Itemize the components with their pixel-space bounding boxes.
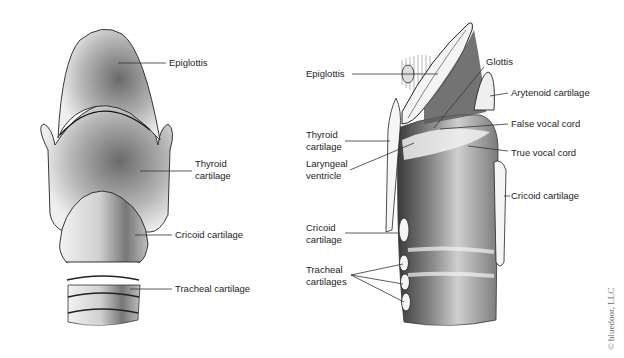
label-line-2: cartilage [306, 141, 342, 153]
label-cricoid-cartilage-anterior: Cricoid cartilage [306, 222, 342, 246]
label-cricoid-cartilage-posterior: Cricoid cartilage [511, 190, 579, 202]
label-line-2: cartilage [195, 170, 231, 182]
label-false-vocal-cord: False vocal cord [511, 118, 580, 130]
label-line-1: Thyroid [195, 158, 231, 170]
label-line-2: ventricle [306, 170, 348, 182]
label-line-2: cartilage [306, 234, 342, 246]
label-line-1: Laryngeal [306, 158, 348, 170]
label-line-2: cartilages [306, 276, 347, 288]
label-line-1: Cricoid [306, 222, 342, 234]
label-line-1: Tracheal [306, 264, 347, 276]
label-tracheal-cartilages: Tracheal cartilages [306, 264, 347, 288]
label-thyroid-cartilage-section: Thyroid cartilage [306, 129, 342, 153]
copyright-notice: © bluedoor, LLC [606, 288, 616, 350]
label-epiglottis-front: Epiglottis [169, 57, 208, 69]
label-glottis: Glottis [486, 56, 513, 68]
label-cricoid-cartilage-front: Cricoid cartilage [175, 229, 243, 241]
anterior-larynx-drawing [41, 29, 173, 330]
label-arytenoid-cartilage: Arytenoid cartilage [511, 87, 590, 99]
label-line-1: Thyroid [306, 129, 342, 141]
sagittal-larynx-drawing [386, 23, 510, 330]
label-thyroid-cartilage-front: Thyroid cartilage [195, 158, 231, 182]
label-true-vocal-cord: True vocal cord [511, 147, 576, 159]
label-tracheal-cartilage-front: Tracheal cartilage [175, 283, 250, 295]
label-laryngeal-ventricle: Laryngeal ventricle [306, 158, 348, 182]
label-epiglottis-section: Epiglottis [306, 68, 345, 80]
